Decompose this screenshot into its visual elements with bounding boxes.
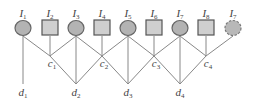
label-I8: I8 (201, 7, 210, 21)
label-c4: c4 (204, 57, 213, 71)
edge-I3-c2 (76, 36, 102, 56)
circle-node-I1 (15, 21, 31, 36)
circle-node-I3 (68, 21, 84, 36)
label-d4: d4 (176, 86, 186, 100)
convolution-tree-diagram: I1I2I3I4I5I6I7I8I7c1c2c3c4d1d2d3d4 (0, 0, 258, 107)
edge-c4-d4 (180, 56, 206, 84)
square-node-I8 (198, 20, 214, 35)
square-node-I6 (146, 20, 162, 35)
label-I7: I7 (175, 7, 184, 21)
label-I3: I3 (71, 7, 80, 21)
label-d1: d1 (19, 86, 29, 100)
circle-node-I7 (172, 21, 188, 36)
edge-I7-c4 (180, 36, 206, 56)
edge-I7b-c4 (206, 36, 233, 56)
edge-c2-d2 (76, 56, 102, 84)
label-I7b: I7 (228, 7, 237, 21)
label-I4: I4 (97, 7, 106, 21)
circle-node-I5 (120, 21, 136, 36)
edge-c3-d3 (128, 56, 154, 84)
label-d3: d3 (124, 86, 134, 100)
square-node-I4 (94, 20, 110, 35)
dashed-circle-node-I7b (225, 21, 241, 36)
label-d2: d2 (72, 86, 82, 100)
edge-I7-c3 (154, 36, 180, 56)
label-I6: I6 (149, 7, 158, 21)
edge-I3-c1 (50, 36, 76, 56)
edge-I1-c1 (23, 36, 50, 56)
edge-I5-c3 (128, 36, 154, 56)
label-I1: I1 (18, 7, 27, 21)
edge-I5-c2 (102, 36, 128, 56)
edges (23, 36, 233, 84)
square-node-I2 (42, 20, 58, 35)
label-c1: c1 (48, 57, 57, 71)
label-c2: c2 (100, 57, 109, 71)
label-I5: I5 (123, 7, 132, 21)
label-c3: c3 (152, 57, 161, 71)
nodes (15, 20, 241, 36)
label-I2: I2 (45, 7, 54, 21)
